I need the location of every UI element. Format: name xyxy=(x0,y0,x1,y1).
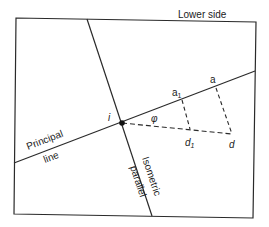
dashed-line-i-to-d xyxy=(122,123,232,134)
point-d1-label: d1 xyxy=(185,137,195,149)
point-a-label: a xyxy=(210,74,216,85)
dashed-line-a-to-d xyxy=(216,88,232,134)
angle-phi-label: φ xyxy=(151,113,158,124)
isocenter-point xyxy=(119,120,125,126)
point-a1-subscript: 1 xyxy=(178,92,182,99)
dashed-line-a1-to-d1 xyxy=(182,100,190,129)
point-d-label: d xyxy=(229,139,235,150)
point-a1-label: a1 xyxy=(172,87,182,99)
point-d1-subscript: 1 xyxy=(191,142,195,149)
point-i-label: i xyxy=(108,112,111,123)
principal-line xyxy=(14,71,255,163)
principal-label: Principal xyxy=(25,128,65,152)
lower-side-label: Lower side xyxy=(178,9,227,20)
photo-geometry-diagram: Lower side Principal line Isometric para… xyxy=(0,0,269,227)
